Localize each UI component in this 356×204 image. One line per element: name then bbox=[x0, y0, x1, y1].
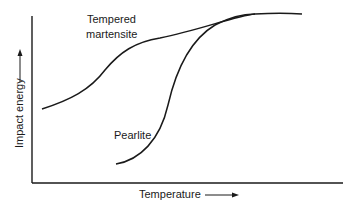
tempered-martensite-curve bbox=[42, 13, 302, 109]
y-axis-label: Impact energy bbox=[13, 78, 25, 148]
x-axis-label: Temperature bbox=[139, 188, 201, 200]
x-axis-arrow-icon bbox=[205, 193, 239, 198]
pearlite-label: Pearlite bbox=[114, 129, 151, 141]
impact-energy-diagram: Tempered martensite Pearlite Temperature… bbox=[0, 0, 356, 204]
tempered-label-line2: martensite bbox=[86, 28, 137, 40]
y-axis-arrow-icon bbox=[18, 49, 23, 82]
tempered-label-line1: Tempered bbox=[87, 13, 136, 25]
